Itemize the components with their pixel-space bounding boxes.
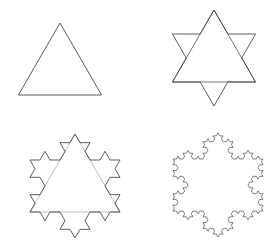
stage-1-hexagram-construction-lines	[172, 10, 255, 82]
stage-1-hexagram	[172, 10, 255, 106]
fractal-panels-group	[18, 10, 263, 238]
koch-snowflake-figure	[0, 0, 273, 245]
stage-2-snowflake-construction-lines	[30, 134, 120, 212]
stage-3-snowflake	[173, 133, 263, 237]
stage-2-snowflake	[30, 134, 120, 238]
stage-0-triangle	[18, 23, 101, 95]
figure-canvas	[0, 0, 273, 245]
